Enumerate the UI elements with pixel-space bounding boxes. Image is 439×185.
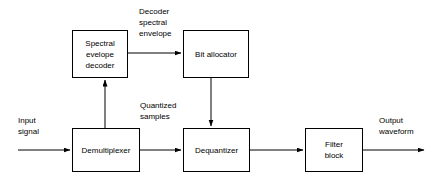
node-dequantizer: Dequantizer: [183, 128, 250, 172]
edge-label-quantized-samples: Quantized samples: [140, 100, 176, 122]
edge-label-decoder-spectral-envelope: Decoder spectral envelope: [139, 6, 171, 39]
edge-label-output-waveform: Output waveform: [379, 115, 414, 137]
node-spectral-envelope-decoder: Spectral evelope decoder: [72, 30, 128, 78]
edge-label-input-signal: Input signal: [18, 115, 39, 137]
node-bit-allocator: Bit allocator: [183, 30, 249, 78]
node-demultiplexer: Demultiplexer: [72, 128, 140, 172]
node-filter-block: Filter block: [305, 128, 363, 172]
block-diagram: Spectral evelope decoder Bit allocator D…: [0, 0, 439, 185]
